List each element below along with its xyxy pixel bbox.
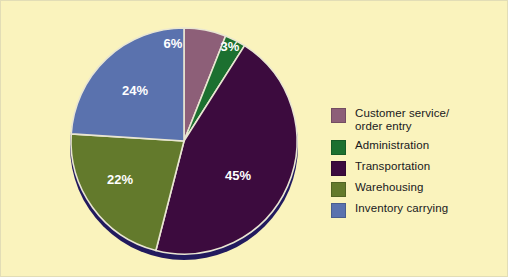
pie-slice-label: 3% — [221, 39, 240, 54]
legend-item-label: Transportation — [355, 160, 430, 173]
legend-color-swatch — [331, 161, 346, 176]
legend-color-swatch — [331, 108, 346, 123]
legend-item[interactable]: Warehousing — [331, 181, 507, 197]
pie-slice-label: 45% — [225, 168, 251, 183]
legend-color-swatch — [331, 203, 346, 218]
legend-item-label: Administration — [355, 139, 429, 152]
chart-canvas: 6%3%45%22%24% Customer service/ order en… — [0, 0, 508, 277]
legend-item[interactable]: Inventory carrying — [331, 202, 507, 218]
legend-item[interactable]: Administration — [331, 139, 507, 155]
legend-item-label: Inventory carrying — [355, 202, 448, 215]
pie-slice-label: 22% — [107, 172, 133, 187]
legend-item[interactable]: Customer service/ order entry — [331, 107, 507, 133]
pie-chart-area: 6%3%45%22%24% — [1, 1, 341, 277]
legend-item-label: Customer service/ order entry — [355, 107, 449, 133]
legend-color-swatch — [331, 140, 346, 155]
legend-item-label: Warehousing — [355, 181, 423, 194]
chart-legend: Customer service/ order entryAdministrat… — [331, 107, 507, 223]
pie-slice-label: 6% — [164, 36, 183, 51]
legend-item[interactable]: Transportation — [331, 160, 507, 176]
pie-chart-svg: 6%3%45%22%24% — [1, 1, 341, 277]
pie-slice-label: 24% — [122, 83, 148, 98]
pie-slices-group — [71, 28, 297, 254]
legend-color-swatch — [331, 182, 346, 197]
